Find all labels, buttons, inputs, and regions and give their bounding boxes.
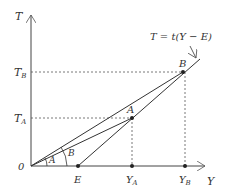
equation-pointer — [190, 46, 196, 58]
point-b — [181, 70, 185, 74]
diagram: T Y 0 TB TA E YA YB B A A B T = t(Y − E) — [0, 0, 227, 194]
point-b-label: B — [178, 58, 186, 69]
equation-label: T = t(Y − E) — [150, 31, 212, 42]
point-a — [130, 116, 134, 120]
point-a-label: A — [126, 104, 134, 115]
point-y-a — [130, 164, 134, 168]
y-a-label: YA — [126, 174, 138, 187]
x-axis-label: Y — [207, 175, 216, 188]
angle-a-label: A — [48, 155, 56, 165]
ray-origin-b — [31, 72, 183, 166]
angle-b-label: B — [67, 148, 75, 158]
tax-line — [78, 59, 200, 166]
e-label: E — [73, 174, 82, 185]
t-a-label: TA — [14, 112, 26, 126]
angle-a-arc — [45, 158, 47, 166]
y-b-label: YB — [179, 174, 191, 187]
y-axis-label: T — [15, 10, 24, 23]
ray-origin-a — [31, 118, 132, 166]
point-y-b — [183, 164, 187, 168]
point-e — [76, 164, 80, 168]
t-b-label: TB — [14, 66, 27, 80]
origin-label: 0 — [18, 161, 25, 172]
